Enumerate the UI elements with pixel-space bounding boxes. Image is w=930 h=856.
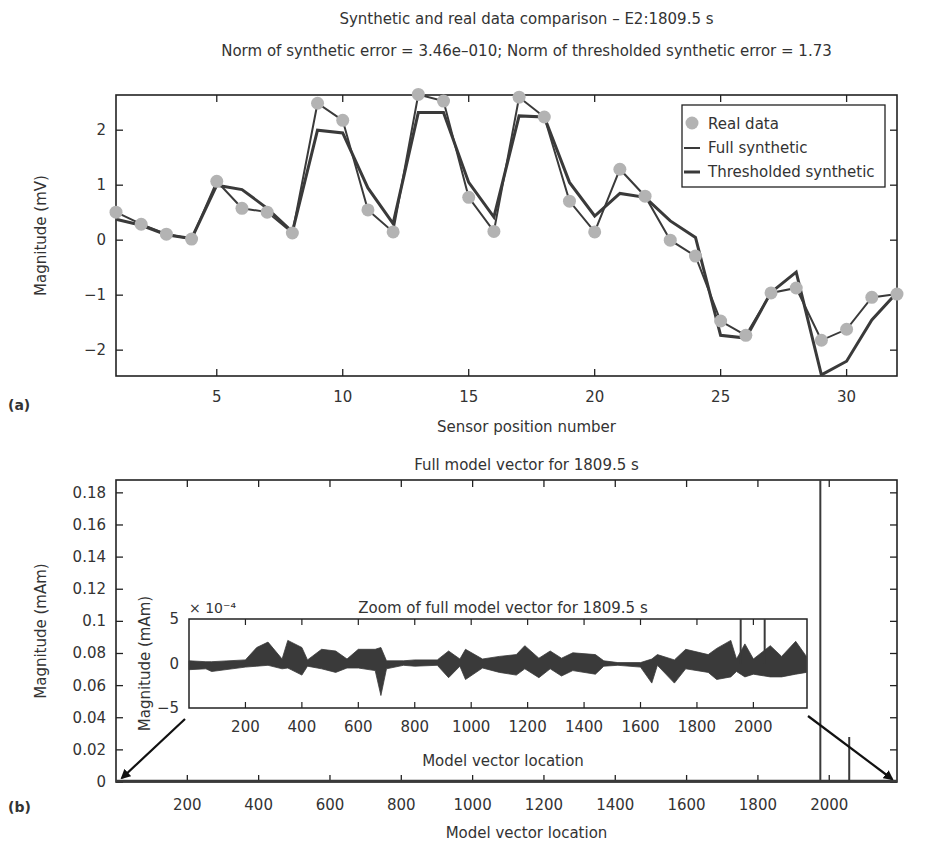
inset-x-tick-label: 600 (344, 718, 373, 736)
x-tick-label: 1600 (667, 796, 705, 814)
real-data-marker (865, 291, 878, 304)
real-data-marker (210, 175, 223, 188)
chart-title-b: Full model vector for 1809.5 s (414, 456, 639, 474)
x-tick-label: 200 (173, 796, 202, 814)
y-tick-label: 0.06 (73, 677, 106, 695)
real-data-marker (513, 91, 526, 104)
legend-real-marker (686, 117, 699, 130)
x-tick-label: 400 (244, 796, 273, 814)
inset-y-axis-label: Magnitude (mAm) (136, 596, 154, 731)
inset-x-tick-label: 2000 (734, 718, 772, 736)
real-data-marker (361, 203, 374, 216)
real-data-marker (765, 286, 778, 299)
x-tick-label: 1400 (596, 796, 634, 814)
y-tick-label: 0.16 (73, 516, 106, 534)
real-data-marker (840, 323, 853, 336)
y-axis-label-b: Magnitude (mAm) (32, 563, 50, 698)
real-data-marker (639, 190, 652, 203)
real-data-marker (286, 227, 299, 240)
y-tick-label: 0.12 (73, 580, 106, 598)
x-tick-label: 5 (212, 388, 222, 406)
y-tick-label: 0.04 (73, 709, 106, 727)
y-tick-label: 0.1 (82, 612, 106, 630)
real-data-marker (613, 163, 626, 176)
real-data-marker (588, 225, 601, 238)
y-tick-label: 0.08 (73, 644, 106, 662)
real-data-marker (714, 315, 727, 328)
inset-x-tick-label: 1800 (678, 718, 716, 736)
inset-y-tick-label: −5 (157, 699, 179, 717)
x-tick-label: 800 (387, 796, 416, 814)
chart-subtitle: Norm of synthetic error = 3.46e–010; Nor… (221, 42, 832, 60)
real-data-marker (135, 218, 148, 231)
y-tick-label: 0 (96, 773, 106, 791)
real-data-marker (664, 234, 677, 247)
x-tick-label: 2000 (810, 796, 848, 814)
real-data-marker (538, 110, 551, 123)
x-axis-label: Sensor position number (437, 418, 617, 436)
real-data-marker (487, 225, 500, 238)
x-tick-label: 1200 (525, 796, 563, 814)
real-data-marker (739, 329, 752, 342)
inset-y-tick-label: 0 (169, 655, 179, 673)
inset-x-tick-label: 800 (400, 718, 429, 736)
y-tick-label: 0.18 (73, 484, 106, 502)
legend-entry: Thresholded synthetic (707, 163, 875, 181)
real-data-marker (110, 206, 123, 219)
chart-title: Synthetic and real data comparison – E2:… (339, 10, 713, 28)
real-data-marker (311, 97, 324, 110)
y-tick-label: 2 (96, 121, 106, 139)
real-data-marker (462, 191, 475, 204)
x-axis-label-b: Model vector location (446, 824, 608, 842)
real-data-marker (387, 225, 400, 238)
real-data-marker (689, 250, 702, 263)
real-data-marker (336, 114, 349, 127)
real-data-marker (815, 334, 828, 347)
real-data-marker (235, 202, 248, 215)
legend-entry: Full synthetic (708, 139, 808, 157)
figure-canvas: Synthetic and real data comparison – E2:… (0, 0, 930, 856)
real-data-marker (437, 95, 450, 108)
inset-x-tick-label: 200 (231, 718, 260, 736)
x-tick-label: 1800 (739, 796, 777, 814)
real-data-marker (563, 195, 576, 208)
figure: Synthetic and real data comparison – E2:… (0, 0, 930, 856)
legend-entry: Real data (708, 115, 779, 133)
x-tick-label: 1000 (454, 796, 492, 814)
y-tick-label: 1 (96, 176, 106, 194)
x-tick-label: 25 (711, 388, 730, 406)
inset-y-tick-label: 5 (169, 610, 179, 628)
panel-label-b: (b) (8, 799, 31, 815)
inset-x-axis-label: Model vector location (422, 752, 584, 770)
x-tick-label: 10 (333, 388, 352, 406)
inset-x-tick-label: 1000 (452, 718, 490, 736)
inset-title: Zoom of full model vector for 1809.5 s (358, 599, 648, 617)
x-tick-label: 600 (316, 796, 345, 814)
inset-x-tick-label: 1200 (509, 718, 547, 736)
x-tick-label: 30 (837, 388, 856, 406)
inset-x-tick-label: 400 (288, 718, 317, 736)
y-tick-label: −1 (84, 286, 106, 304)
inset-multiplier: × 10⁻⁴ (189, 600, 236, 616)
real-data-marker (261, 206, 274, 219)
y-tick-label: 0.14 (73, 548, 106, 566)
panel-label-a: (a) (8, 397, 30, 413)
inset-x-tick-label: 1400 (565, 718, 603, 736)
y-tick-label: 0.02 (73, 741, 106, 759)
real-data-marker (412, 88, 425, 101)
real-data-marker (891, 288, 904, 301)
x-tick-label: 15 (459, 388, 478, 406)
real-data-marker (160, 228, 173, 241)
x-tick-label: 20 (585, 388, 604, 406)
y-tick-label: 0 (96, 231, 106, 249)
real-data-marker (790, 282, 803, 295)
y-axis-label: Magnitude (mV) (32, 175, 50, 296)
y-tick-label: −2 (84, 341, 106, 359)
real-data-marker (185, 233, 198, 246)
inset-x-tick-label: 1600 (621, 718, 659, 736)
